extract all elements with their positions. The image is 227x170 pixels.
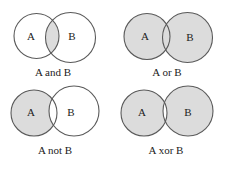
- set-label-b: B: [67, 106, 74, 118]
- set-label-a: A: [27, 30, 35, 42]
- panel-caption: A and B: [35, 66, 71, 78]
- set-label-a: A: [138, 106, 146, 118]
- venn-diagram-figure: A B A and B A B A or B A B A not B A B A…: [0, 0, 227, 170]
- venn-panel-not: A B A not B: [11, 86, 99, 156]
- set-label-a: A: [141, 30, 149, 42]
- venn-panel-and: A B A and B: [14, 13, 96, 79]
- venn-panel-xor: A B A xor B: [121, 86, 213, 156]
- set-label-b: B: [68, 30, 75, 42]
- shaded-region: [124, 13, 213, 63]
- venn-panel-or: A B A or B: [124, 13, 213, 79]
- panel-caption: A or B: [152, 66, 181, 78]
- panel-caption: A not B: [38, 144, 72, 156]
- set-label-b: B: [186, 31, 193, 43]
- panel-caption: A xor B: [149, 144, 184, 156]
- set-label-a: A: [27, 106, 35, 118]
- set-label-b: B: [184, 106, 191, 118]
